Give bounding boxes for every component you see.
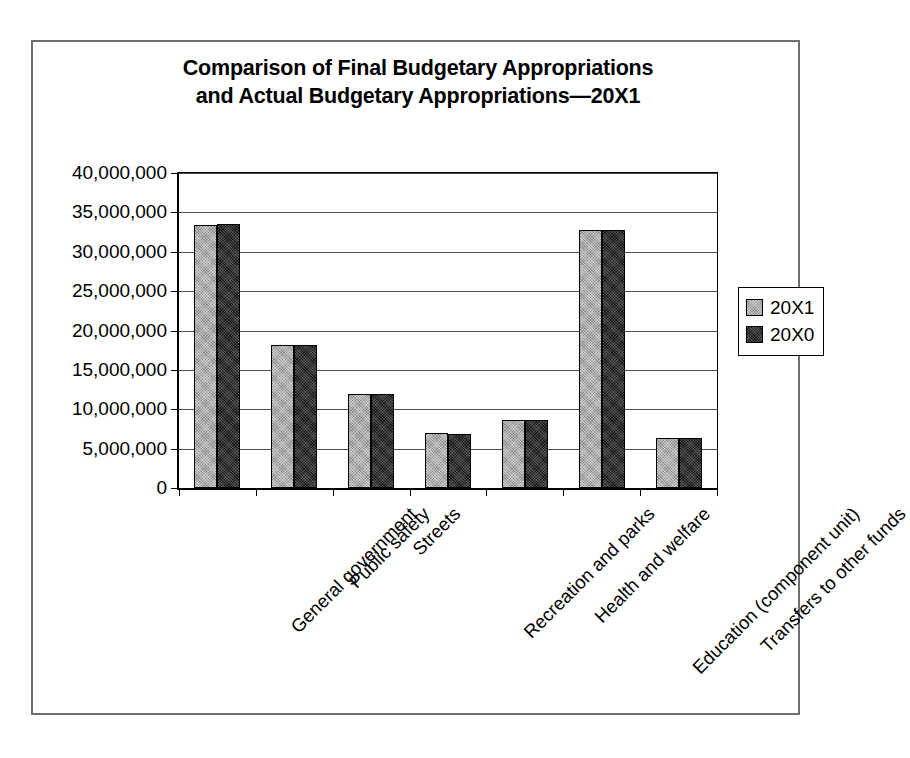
y-gridline bbox=[179, 173, 717, 174]
bar-20X0-3 bbox=[371, 394, 394, 488]
x-axis-tick bbox=[410, 488, 411, 496]
bar-20X0-5 bbox=[525, 420, 548, 488]
y-axis-tick bbox=[171, 370, 178, 371]
bar-20X1-6 bbox=[579, 230, 602, 488]
bar-20X0-7 bbox=[679, 438, 702, 488]
legend-swatch-icon-20x1 bbox=[746, 299, 763, 316]
y-gridline bbox=[179, 409, 717, 410]
chart-title: Comparison of Final Budgetary Appropriat… bbox=[93, 54, 743, 110]
bar-20X0-6 bbox=[602, 230, 625, 488]
y-axis-tick-label: 30,000,000 bbox=[17, 241, 167, 263]
legend-item-20x1: 20X1 bbox=[746, 294, 814, 321]
y-axis-tick bbox=[171, 331, 178, 332]
y-gridline bbox=[179, 291, 717, 292]
x-axis-tick bbox=[486, 488, 487, 496]
x-axis-tick bbox=[640, 488, 641, 496]
y-axis-tick-label: 20,000,000 bbox=[17, 320, 167, 342]
bar-20X1-4 bbox=[425, 433, 448, 488]
bar-20X1-1 bbox=[194, 225, 217, 488]
y-gridline bbox=[179, 212, 717, 213]
bar-20X0-2 bbox=[294, 345, 317, 488]
y-gridline bbox=[179, 370, 717, 371]
bar-20X0-4 bbox=[448, 434, 471, 488]
y-axis-tick bbox=[171, 212, 178, 213]
y-axis-tick-label: 5,000,000 bbox=[17, 438, 167, 460]
legend-item-20x0: 20X0 bbox=[746, 321, 814, 348]
bar-20X1-7 bbox=[656, 438, 679, 488]
y-axis-tick bbox=[171, 252, 178, 253]
chart-title-line-1: Comparison of Final Budgetary Appropriat… bbox=[93, 54, 743, 82]
legend-label-20x1: 20X1 bbox=[770, 298, 814, 317]
x-axis-tick bbox=[563, 488, 564, 496]
y-axis-tick bbox=[171, 449, 178, 450]
legend-swatch-icon-20x0 bbox=[746, 326, 763, 343]
x-axis-tick bbox=[333, 488, 334, 496]
bar-20X1-2 bbox=[271, 345, 294, 488]
y-axis-tick-label: 40,000,000 bbox=[17, 162, 167, 184]
bar-20X1-3 bbox=[348, 394, 371, 488]
bar-20X1-5 bbox=[502, 420, 525, 488]
legend-label-20x0: 20X0 bbox=[770, 325, 814, 344]
y-axis-tick bbox=[171, 488, 178, 489]
x-axis-tick bbox=[717, 488, 718, 496]
plot-area: 40,000,00035,000,00030,000,00025,000,000… bbox=[177, 172, 718, 490]
y-axis-tick-label: 35,000,000 bbox=[17, 201, 167, 223]
y-gridline bbox=[179, 331, 717, 332]
y-axis-tick-label: 10,000,000 bbox=[17, 398, 167, 420]
y-gridline bbox=[179, 252, 717, 253]
chart-figure-frame: Comparison of Final Budgetary Appropriat… bbox=[31, 40, 800, 715]
y-axis-tick bbox=[171, 173, 178, 174]
bar-20X0-1 bbox=[217, 224, 240, 488]
y-axis-tick bbox=[171, 409, 178, 410]
x-axis-tick bbox=[256, 488, 257, 496]
y-axis-tick-label: 15,000,000 bbox=[17, 359, 167, 381]
y-axis-tick-label: 0 bbox=[17, 477, 167, 499]
chart-title-line-2: and Actual Budgetary Appropriations—20X1 bbox=[93, 82, 743, 110]
y-axis-tick-label: 25,000,000 bbox=[17, 280, 167, 302]
y-axis-tick bbox=[171, 291, 178, 292]
chart-legend: 20X1 20X0 bbox=[738, 287, 824, 356]
x-axis-tick bbox=[179, 488, 180, 496]
